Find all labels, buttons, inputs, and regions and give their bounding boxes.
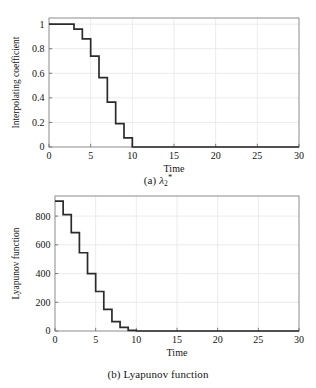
y-tick-label: 0.2 [32,117,45,128]
caption-a-superscript: * [168,172,172,182]
x-tick-label: 10 [131,334,141,345]
x-axis-title: Time [164,163,185,172]
lyapunov-function-plot: 0510152025300200400600800TimeLyapunov fu… [0,188,316,368]
x-tick-label: 5 [88,150,93,161]
chart-panel-b: 0510152025300200400600800TimeLyapunov fu… [0,188,316,388]
x-axis-title: Time [167,347,188,358]
caption-b-prefix: (b) [107,368,120,380]
y-axis-title: Lyapunov function [11,227,21,299]
x-tick-label: 30 [294,150,304,161]
x-tick-label: 0 [53,334,58,345]
gridlines [55,196,299,331]
caption-a-prefix: (a) [144,174,157,186]
y-tick-label: 0.6 [32,68,45,79]
x-tick-label: 25 [253,334,263,345]
y-tick-label: 800 [36,211,51,222]
x-tick-label: 15 [172,334,182,345]
y-tick-label: 0.4 [32,92,45,103]
caption-panel-b: (b) Lyapunov function [0,368,316,380]
y-axis-title: Interpolating coefficient [11,36,21,128]
x-tick-label: 15 [169,150,179,161]
x-tick-label: 30 [294,334,304,345]
x-tick-label: 25 [252,150,262,161]
y-tick-labels: 00.20.40.60.81 [32,19,45,153]
interpolating-coefficient-plot: 05101520253000.20.40.60.81TimeInterpolat… [0,0,316,172]
y-tick-label: 600 [36,239,51,250]
x-tick-label: 20 [213,334,223,345]
y-tick-label: 1 [40,19,45,30]
x-tick-label: 10 [127,150,137,161]
figure-container: 05101520253000.20.40.60.81TimeInterpolat… [0,0,316,388]
x-tick-label: 5 [93,334,98,345]
chart-panel-a: 05101520253000.20.40.60.81TimeInterpolat… [0,0,316,195]
x-tick-labels: 051015202530 [53,334,305,345]
y-tick-label: 400 [36,268,51,279]
y-tick-label: 0 [46,325,51,336]
caption-panel-a: (a) λ2* [0,172,316,188]
caption-b-label: Lyapunov function [123,368,208,380]
gridlines [49,18,299,147]
x-tick-label: 0 [47,150,52,161]
x-tick-labels: 051015202530 [47,150,305,161]
y-tick-labels: 0200400600800 [36,211,51,337]
y-tick-label: 0.8 [32,43,45,54]
y-tick-label: 0 [40,141,45,152]
x-tick-label: 20 [211,150,221,161]
y-tick-label: 200 [36,297,51,308]
